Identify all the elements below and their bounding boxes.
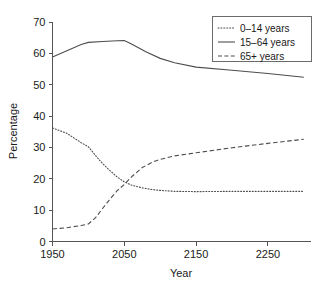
x-tick-label-group: 1950205021502250: [40, 248, 280, 260]
series-dotted: [53, 128, 304, 192]
x-axis-title: Year: [170, 267, 193, 279]
series-dashed: [53, 139, 304, 229]
legend-label: 0–14 years: [240, 23, 289, 34]
x-axis: 1950205021502250: [40, 242, 311, 260]
x-tick-label: 2250: [256, 248, 280, 260]
x-tick-label: 2150: [184, 248, 208, 260]
y-axis: 010203040506070: [33, 16, 52, 248]
y-tick-label: 20: [33, 173, 45, 185]
y-tick-group: [49, 22, 53, 242]
y-tick-label: 40: [33, 110, 45, 122]
y-axis-title: Percentage: [7, 103, 19, 159]
y-tick-label-group: 010203040506070: [33, 16, 45, 248]
chart-legend: 0–14 years15–64 years65+ years: [213, 17, 312, 62]
y-tick-label: 10: [33, 204, 45, 216]
chart-canvas: 010203040506070 1950205021502250 Year Pe…: [0, 0, 324, 286]
y-tick-label: 70: [33, 16, 45, 28]
y-tick-label: 30: [33, 141, 45, 153]
legend-label: 65+ years: [240, 51, 284, 62]
x-tick-label: 2050: [112, 248, 136, 260]
y-tick-label: 0: [39, 236, 45, 248]
series-group: [53, 41, 304, 229]
y-tick-label: 60: [33, 47, 45, 59]
x-tick-group: [53, 242, 268, 246]
legend-label: 15–64 years: [240, 37, 295, 48]
x-tick-label: 1950: [40, 248, 64, 260]
population-age-structure-chart: 010203040506070 1950205021502250 Year Pe…: [0, 0, 324, 286]
y-tick-label: 50: [33, 79, 45, 91]
